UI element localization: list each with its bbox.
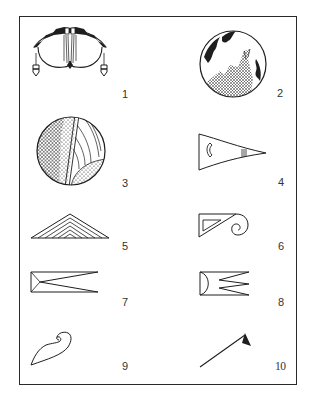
nested-chevron-icon	[30, 212, 110, 240]
figure-7-forked-motif	[30, 271, 100, 293]
forked-rectangle-icon	[30, 271, 100, 293]
figure-10-flag-motif	[199, 329, 255, 369]
figure-number-10: 10	[275, 361, 286, 373]
figure-number-1: 1	[122, 89, 128, 100]
figure-number-6: 6	[278, 241, 284, 252]
hook-curl-icon	[30, 329, 74, 367]
winged-bird-icon	[30, 25, 110, 80]
figure-1-winged-motif	[30, 25, 110, 80]
line-flag-icon	[199, 329, 255, 369]
figure-5-triangle-motif	[30, 212, 110, 240]
figure-number-5: 5	[122, 241, 128, 252]
pennant-icon	[198, 133, 268, 173]
quartered-circle-icon	[35, 115, 107, 187]
figure-number-7: 7	[122, 297, 128, 308]
figure-4-pennant-motif	[198, 133, 268, 173]
figure-9-hook-motif	[30, 329, 74, 367]
triangle-scroll-icon	[198, 213, 250, 239]
figure-number-3: 3	[122, 178, 128, 189]
figure-6-scroll-motif	[198, 213, 250, 239]
figure-3-circle-motif	[35, 115, 107, 187]
figure-number-8: 8	[278, 297, 284, 308]
figure-number-9: 9	[122, 361, 128, 372]
figure-8-zigzag-motif	[199, 271, 251, 297]
figure-2-circle-motif	[198, 29, 268, 99]
figure-number-2: 2	[277, 88, 283, 99]
figure-number-4: 4	[278, 177, 284, 188]
semicircle-zigzag-icon	[199, 271, 251, 297]
circle-feather-icon	[198, 29, 268, 99]
